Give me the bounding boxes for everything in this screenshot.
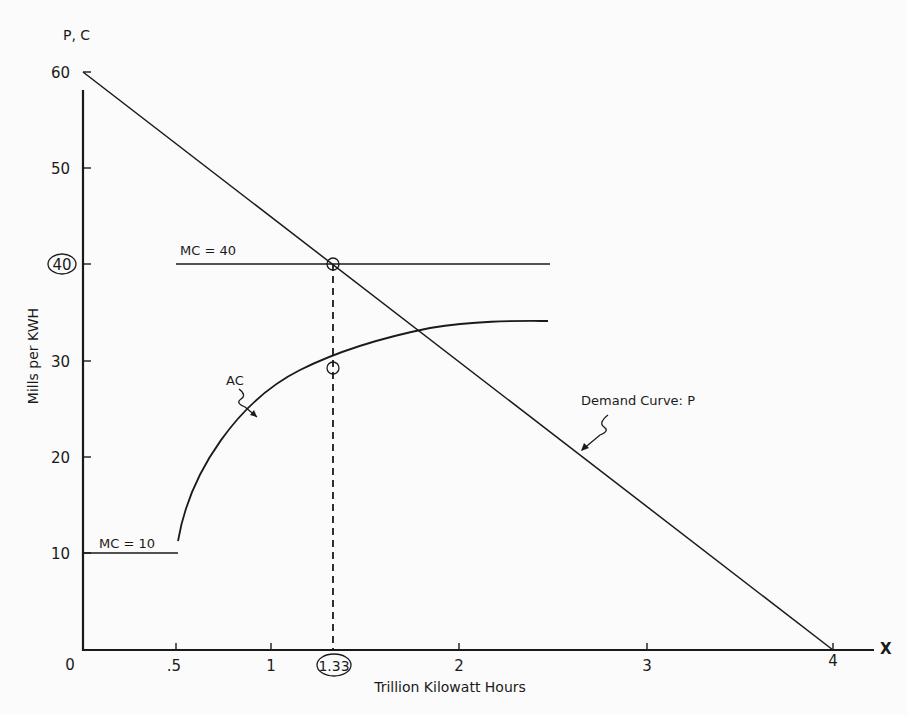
y-tick-label-40: 40 (52, 256, 71, 274)
x-tick-label-0.5: .5 (167, 657, 181, 675)
mc40-label: MC = 40 (180, 243, 236, 258)
demand-curve-line (83, 72, 833, 650)
y-tick-label-20: 20 (51, 449, 70, 467)
x-axis-title: Trillion Kilowatt Hours (373, 679, 526, 695)
y-tick-label-50: 50 (51, 160, 70, 178)
y-axis-top-label: P, C (63, 27, 90, 43)
y-tick-label-10: 10 (51, 545, 70, 563)
ac-label: AC (226, 373, 244, 388)
x-tick-label-1.33: 1.33 (318, 658, 349, 674)
demand-pointer-arrow-icon (582, 415, 608, 450)
x-tick-label-2: 2 (454, 657, 464, 675)
x-tick-label-3: 3 (642, 657, 652, 675)
y-axis-title: Mills per KWH (25, 308, 41, 404)
y-ticks (83, 72, 91, 553)
x-tick-label-1: 1 (266, 657, 276, 675)
x-tick-label-4: 4 (828, 652, 838, 670)
y-tick-label-60: 60 (51, 64, 70, 82)
mc10-label: MC = 10 (99, 536, 155, 551)
x-axis-end-label: X (880, 640, 892, 658)
y-tick-label-30: 30 (51, 353, 70, 371)
origin-label: 0 (65, 656, 75, 674)
ac-curve-line (178, 321, 548, 541)
demand-arrowhead-icon (581, 443, 589, 451)
chart-canvas: 60 50 40 30 20 10 P, C 0 X .5 1 1.33 2 3… (0, 0, 907, 715)
ac-arrowhead-icon (250, 410, 257, 417)
demand-curve-label: Demand Curve: P (581, 393, 695, 408)
